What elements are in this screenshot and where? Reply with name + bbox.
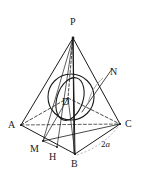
label-c: C [125, 119, 132, 129]
label-b: B [71, 159, 78, 169]
line-m-h [43, 141, 57, 147]
altitude-p-h [73, 38, 74, 153]
marker-a [20, 124, 22, 126]
label-m: M [30, 144, 39, 154]
edge-b-c [75, 124, 120, 154]
marker-b [74, 153, 76, 155]
line-p-h [57, 38, 73, 147]
marker-c [119, 123, 121, 125]
edge-p-c [73, 38, 120, 124]
diagonal-a-c [21, 124, 120, 125]
dimension-symbol: a [106, 139, 111, 149]
label-d: D [62, 97, 69, 107]
inscribed-sphere-outline [48, 74, 94, 120]
marker-h [56, 146, 58, 148]
marker-m [42, 140, 44, 142]
construction-lines [43, 38, 120, 153]
dimension-leader-2a [77, 127, 118, 155]
label-p: P [70, 17, 76, 27]
label-h: H [49, 152, 56, 162]
base-hidden-edges [21, 98, 120, 125]
label-n: N [110, 67, 117, 77]
line-to-n [82, 69, 112, 112]
label-a: A [8, 120, 15, 130]
label-dimension-2a: 2a [101, 139, 110, 149]
geometry-figure: P A B C D M H N 2a [0, 0, 143, 174]
marker-p [72, 37, 75, 40]
segment-n [82, 69, 112, 112]
